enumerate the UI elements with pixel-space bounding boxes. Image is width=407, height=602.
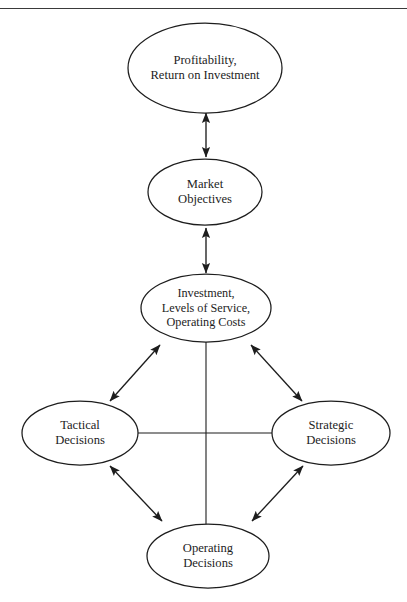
market-objectives-node-shape [148,159,262,225]
diagram-root: Profitability,Return on InvestmentMarket… [0,0,407,602]
connector-operating-strategic [252,466,303,521]
profitability-node-shape [128,23,282,113]
operating-decisions-node-shape [147,524,269,588]
diagram-canvas [0,0,407,602]
strategic-decisions-node-shape [272,401,390,465]
connector-investment-strategic [251,345,302,401]
connector-tactical-investment [110,345,160,401]
tactical-decisions-node-shape [22,401,138,465]
connector-tactical-operating [110,466,162,521]
investment-node-shape [141,274,271,342]
